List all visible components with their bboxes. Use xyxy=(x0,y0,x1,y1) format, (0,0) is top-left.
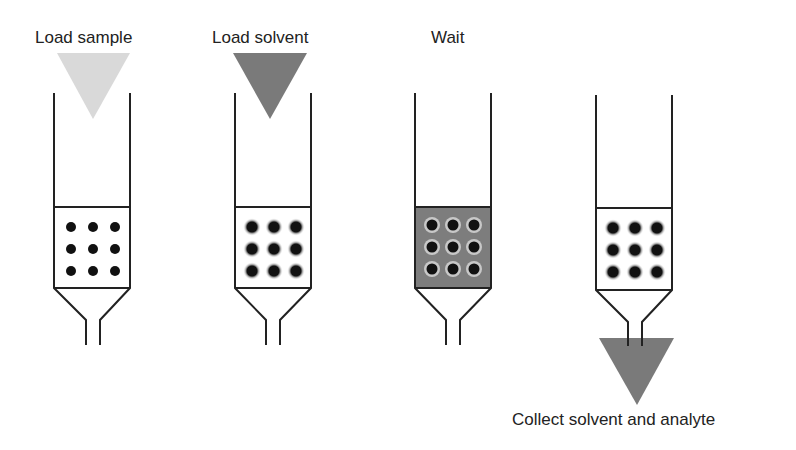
column-collect xyxy=(596,95,674,405)
sample-triangle-icon xyxy=(57,53,130,119)
sorbent-beads xyxy=(243,218,305,280)
step-label-load-solvent: Load solvent xyxy=(212,28,308,48)
step-label-collect: Collect solvent and analyte xyxy=(512,410,715,430)
solvent-triangle-icon xyxy=(233,53,307,119)
spe-diagram xyxy=(0,0,796,450)
step-label-wait: Wait xyxy=(431,28,464,48)
sorbent-beads xyxy=(66,222,120,276)
column-wait xyxy=(415,93,491,345)
collect-triangle-icon xyxy=(599,338,674,405)
sorbent-beads xyxy=(424,217,482,277)
sorbent-beads xyxy=(604,219,666,281)
column-load-solvent xyxy=(233,53,311,345)
column-load-sample xyxy=(54,53,130,345)
step-label-load-sample: Load sample xyxy=(35,28,132,48)
